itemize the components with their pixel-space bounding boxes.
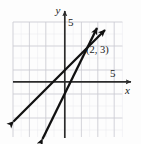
x-tick-label-5: 5 xyxy=(110,67,116,79)
coordinate-plane-svg: y x 5 5 (2, 3) xyxy=(0,0,141,144)
x-axis-label: x xyxy=(124,84,130,96)
y-axis-label: y xyxy=(55,4,61,16)
graph-figure: y x 5 5 (2, 3) xyxy=(0,0,141,144)
y-tick-label-5: 5 xyxy=(68,16,74,28)
intersection-point-label: (2, 3) xyxy=(86,44,109,56)
